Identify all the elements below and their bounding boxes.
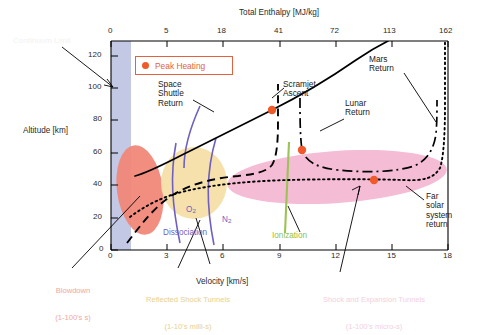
left-tick-80: 80 <box>93 115 102 124</box>
n2-subscript: 2 <box>228 217 231 224</box>
label-lunar-return: Lunar Return <box>345 99 370 118</box>
o2-subscript: 2 <box>192 207 195 214</box>
label-far-solar-system-return: Far solar system return <box>426 192 452 229</box>
top-tick-4: 72 <box>330 27 339 36</box>
peak-heating-marker-lunar <box>298 146 306 154</box>
label-dissociation: Dissociation <box>163 228 207 237</box>
left-axis-title: Altitude [km] <box>23 126 68 135</box>
facility-shock-exp-time: (1-100's micro-s) <box>300 322 448 331</box>
label-scramjet-ascent: Scramjet Ascent <box>283 80 316 99</box>
left-tick-0: 0 <box>99 245 103 254</box>
bottom-tick-9: 9 <box>277 252 281 261</box>
top-axis-title: Total Enthalpy [MJ/kg] <box>239 8 319 17</box>
bottom-tick-6: 6 <box>220 252 224 261</box>
facility-shock-expansion-tunnels: Shock and Expansion Tunnels (1-100's mic… <box>300 276 448 335</box>
label-o2: O2 <box>186 205 196 215</box>
legend-label: Peak Heating <box>155 61 205 71</box>
continuum-limit-label: Continuum Limit <box>13 36 71 46</box>
facility-blowdown: Blowdown (1-100's s) <box>35 267 111 335</box>
top-tick-2: 18 <box>217 27 226 36</box>
bottom-tick-0: 0 <box>108 252 112 261</box>
peak-heating-marker-shuttle <box>268 106 276 114</box>
facility-reflected-shock-tunnels: Reflected Shock Tunnels (1-10's milli-s) <box>126 276 250 335</box>
peak-heating-marker-mars <box>370 176 378 184</box>
bottom-tick-12: 12 <box>331 252 340 261</box>
left-tick-40: 40 <box>93 180 102 189</box>
left-tick-20: 20 <box>93 213 102 222</box>
bottom-tick-18: 18 <box>443 252 452 261</box>
left-tick-120: 120 <box>88 51 101 60</box>
facility-blowdown-name: Blowdown <box>35 286 111 295</box>
facility-blowdown-time: (1-100's s) <box>35 313 111 322</box>
left-tick-60: 60 <box>93 148 102 157</box>
facility-shock-exp-name: Shock and Expansion Tunnels <box>300 295 448 304</box>
peak-heating-dot-icon <box>142 62 149 69</box>
top-tick-0: 0 <box>108 27 112 36</box>
facility-reflected-time: (1-10's milli-s) <box>126 322 250 331</box>
bottom-tick-3: 3 <box>164 252 168 261</box>
label-space-shuttle-return: Space Shuttle Return <box>158 80 184 108</box>
top-tick-6: 162 <box>439 27 452 36</box>
top-tick-1: 5 <box>164 27 168 36</box>
bottom-tick-15: 15 <box>387 252 396 261</box>
label-mars-return: Mars Return <box>369 55 394 74</box>
left-tick-100: 100 <box>88 83 101 92</box>
legend-peak-heating: Peak Heating <box>135 56 233 75</box>
facility-reflected-name: Reflected Shock Tunnels <box>126 295 250 304</box>
label-n2: N2 <box>222 215 231 225</box>
top-tick-3: 41 <box>274 27 283 36</box>
label-ionization: Ionization <box>272 231 307 240</box>
top-tick-5: 113 <box>383 27 396 36</box>
